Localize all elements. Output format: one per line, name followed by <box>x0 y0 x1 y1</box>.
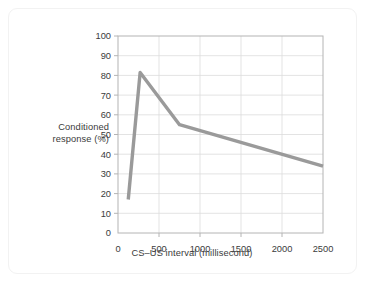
y-tick-label: 70 <box>101 91 111 101</box>
y-axis-title-line2: response (%) <box>53 134 110 144</box>
y-tick-label: 60 <box>101 110 111 120</box>
y-tick-label: 40 <box>101 150 111 160</box>
y-tick-label: 90 <box>101 51 111 61</box>
y-tick-label: 30 <box>101 169 111 179</box>
y-tick-label: 10 <box>101 209 111 219</box>
y-axis-title: Conditioned response (%) <box>14 121 109 145</box>
data-series-line <box>128 72 323 199</box>
y-tick-label: 20 <box>101 189 111 199</box>
figure-card: 0102030405060708090100 05001000150020002… <box>8 8 357 274</box>
chart-stage: 0102030405060708090100 05001000150020002… <box>9 9 358 275</box>
axis-tick-marks <box>114 36 282 237</box>
y-tick-label: 100 <box>95 31 111 41</box>
gridlines <box>118 36 323 233</box>
y-tick-label: 80 <box>101 71 111 81</box>
y-axis-title-line1: Conditioned <box>58 122 109 132</box>
series-line-conditioned-response <box>128 72 323 199</box>
y-tick-label: 0 <box>106 228 111 238</box>
x-axis-title: CS–US interval (millisecond) <box>57 247 327 259</box>
